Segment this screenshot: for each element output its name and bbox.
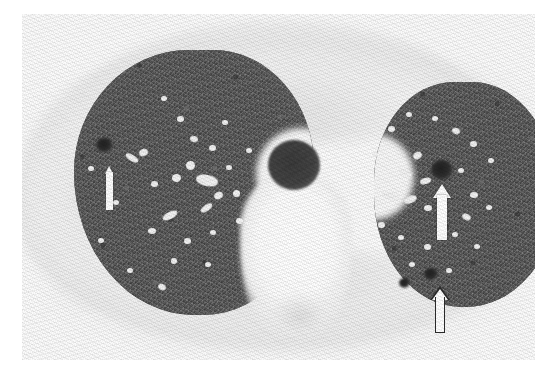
left-lung-field — [374, 82, 535, 307]
ct-image-viewport — [0, 0, 559, 384]
vertebral-body-shadow — [270, 292, 330, 338]
arrow-shaft-icon — [106, 172, 113, 210]
annotation-arrow-left-lung-base — [430, 286, 450, 334]
arrow-shaft-outline-icon — [435, 297, 445, 333]
trachea — [268, 140, 320, 190]
annotation-arrow-left-lung-nodule — [433, 184, 451, 240]
annotation-arrow-right-lung — [105, 166, 114, 210]
ct-scan-canvas — [22, 14, 535, 360]
arrow-shaft-icon — [437, 195, 447, 240]
figure-caption — [22, 362, 535, 382]
trachea-lumen-grain — [268, 140, 320, 190]
